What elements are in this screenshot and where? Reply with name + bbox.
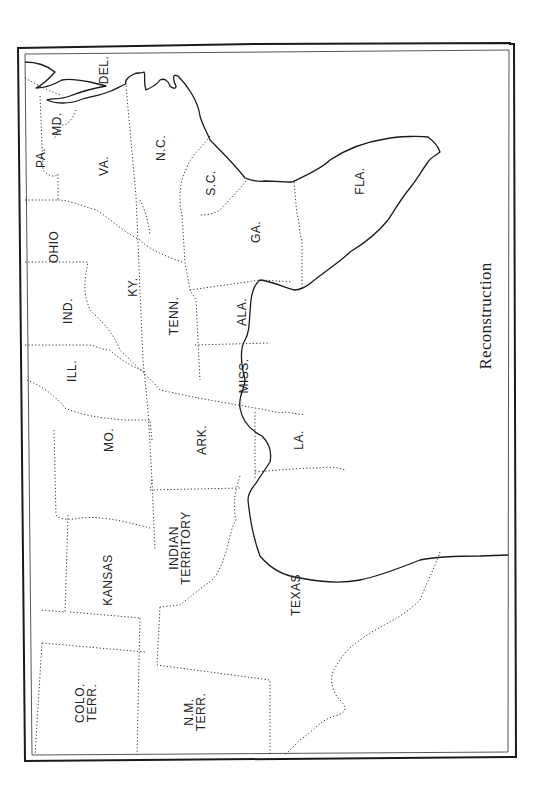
map-title: Reconstruction xyxy=(476,262,495,369)
label-ga: GA. xyxy=(249,221,263,243)
label-md: MD. xyxy=(50,112,64,136)
label-fla: FLA. xyxy=(353,167,367,194)
state-boundaries xyxy=(25,78,440,755)
label-ark: ARK. xyxy=(195,425,209,455)
label-nc: N.C. xyxy=(154,135,168,161)
label-ohio: OHIO xyxy=(47,231,61,264)
label-kansas: KANSAS xyxy=(101,554,115,606)
label-nm-terr-2: TERR. xyxy=(194,693,208,732)
atlantic-gulf-coastline xyxy=(25,62,508,582)
label-colo-terr-2: TERR. xyxy=(85,684,99,723)
label-indian-territory-2: TERRITORY xyxy=(179,511,193,584)
label-texas: TEXAS xyxy=(289,574,303,616)
label-ill: ILL. xyxy=(65,360,79,382)
label-la: LA. xyxy=(292,430,306,450)
label-sc: S.C. xyxy=(204,170,218,195)
label-miss: MISS. xyxy=(237,358,251,393)
label-ala: ALA. xyxy=(235,298,249,326)
label-tenn: TENN. xyxy=(167,297,181,336)
label-va: VA. xyxy=(97,156,111,176)
label-ky: KY. xyxy=(126,277,140,296)
label-del: DEL. xyxy=(97,56,111,85)
label-mo: MO. xyxy=(102,428,116,452)
reconstruction-map: PA. MD. DEL. VA. N.C. S.C. GA. FLA. OHIO… xyxy=(0,0,558,805)
map-outer-frame xyxy=(18,43,516,761)
state-labels: PA. MD. DEL. VA. N.C. S.C. GA. FLA. OHIO… xyxy=(34,56,367,732)
label-pa: PA. xyxy=(34,148,48,168)
label-ind: IND. xyxy=(61,298,75,324)
map-inner-frame xyxy=(25,50,509,755)
